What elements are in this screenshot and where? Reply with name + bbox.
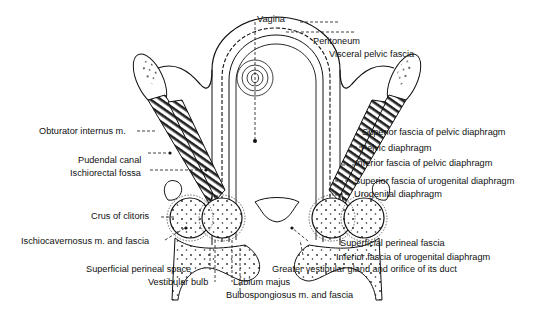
label-ischiorectal-fossa: Ischiorectal fossa <box>70 168 141 179</box>
label-labium-majus: Labium majus <box>233 277 290 288</box>
label-inferior-fascia-urogenital-diaphragm: Inferior fascia of urogenital diaphragm <box>336 252 490 263</box>
label-superior-fascia-pelvic-diaphragm: Superior fascia of pelvic diaphragm <box>362 127 506 138</box>
label-pudendal-canal: Pudendal canal <box>78 155 141 166</box>
label-superficial-perineal-fascia: Superficial perineal fascia <box>340 238 445 249</box>
label-pelvic-diaphragm: Pelvic diaphragm <box>361 143 431 154</box>
label-superior-fascia-urogenital-diaphragm: Superior fascia of urogenital diaphragm <box>354 176 514 187</box>
label-peritoneum: Peritoneum <box>313 36 360 47</box>
label-vestibular-bulb: Vestibular bulb <box>148 277 208 288</box>
label-visceral-pelvic-fascia: Visceral pelvic fascia <box>329 49 414 60</box>
label-obturator-internus: Obturator internus m. <box>39 126 126 137</box>
label-urogenital-diaphragm: Urogenital diaphragm <box>354 189 442 200</box>
label-vagina: Vagina <box>257 14 285 25</box>
label-crus-of-clitoris: Crus of clitoris <box>91 211 149 222</box>
label-greater-vestibular-gland: Greater vestibular gland and orifice of … <box>272 264 457 275</box>
label-bulbospongiosus: Bulbospongiosus m. and fascia <box>226 290 353 301</box>
label-inferior-fascia-pelvic-diaphragm: Inferior fascia of pelvic diaphragm <box>355 158 492 169</box>
label-superficial-perineal-space: Superficial perineal space <box>86 264 191 275</box>
label-ischiocavernosus: Ischiocavernosus m. and fascia <box>21 236 149 247</box>
